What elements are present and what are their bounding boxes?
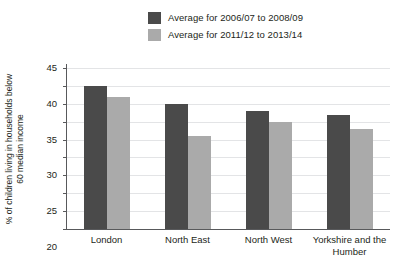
legend-swatch-series-1 [148, 12, 161, 24]
x-axis-category-label: North West [228, 234, 309, 246]
bar-series-2 [269, 122, 292, 229]
y-axis-tick-label: 40 [46, 99, 57, 109]
y-axis-title: % of children living in households below… [0, 68, 30, 230]
bar-group [228, 111, 309, 229]
bar-series-1 [246, 111, 269, 229]
bar-series-2 [107, 97, 130, 229]
y-axis-tick-label: 30 [46, 171, 57, 181]
bar-series-2 [350, 129, 373, 229]
x-axis-category-label: London [66, 234, 147, 246]
legend-item-series-1: Average for 2006/07 to 2008/09 [148, 11, 303, 24]
bars-layer [66, 68, 390, 230]
bar-group [66, 86, 147, 229]
y-axis-tick-label: 20 [46, 242, 57, 252]
legend-swatch-series-2 [148, 29, 161, 41]
legend-label-series-2: Average for 2011/12 to 2013/14 [168, 29, 302, 41]
y-axis-tick-label: 35 [46, 135, 57, 145]
bar-series-1 [84, 86, 107, 229]
y-axis-tick-label: 25 [46, 206, 57, 216]
bar-group [147, 104, 228, 229]
bar-series-2 [188, 136, 211, 229]
y-axis-tick-label: 45 [46, 63, 57, 73]
bar-series-1 [327, 115, 350, 229]
bar-chart: Average for 2006/07 to 2008/09 Average f… [0, 0, 404, 262]
x-axis-category-label: North East [147, 234, 228, 246]
bar-group [309, 115, 390, 229]
legend-label-series-1: Average for 2006/07 to 2008/09 [168, 12, 303, 24]
legend-item-series-2: Average for 2011/12 to 2013/14 [148, 28, 303, 41]
chart-legend: Average for 2006/07 to 2008/09 Average f… [148, 11, 303, 41]
x-axis-category-label: Yorkshire and the Humber [309, 234, 390, 257]
bar-series-1 [165, 104, 188, 229]
plot-area: 051015202530354045 [66, 68, 390, 230]
